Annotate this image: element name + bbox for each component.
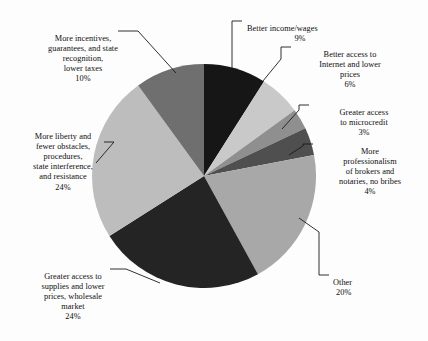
slice-label-supplies-pct: 24% bbox=[12, 312, 134, 322]
slice-label-supplies: Greater access to supplies and lower pri… bbox=[12, 262, 134, 333]
slice-label-income-text: Better income/wages bbox=[247, 24, 318, 33]
slice-label-internet-text: Better access to Internet and lower pric… bbox=[319, 50, 381, 79]
pie-svg bbox=[92, 64, 316, 288]
slice-label-other: Other 20% bbox=[333, 268, 413, 308]
slice-label-liberty-text: More liberty and fewer obstacles, proced… bbox=[33, 132, 93, 181]
slice-label-incentives-text: More incentives, guarantees, and state r… bbox=[48, 34, 118, 73]
slice-label-other-text: Other bbox=[333, 278, 352, 287]
slice-label-internet-pct: 6% bbox=[296, 80, 404, 90]
slice-label-incentives: More incentives, guarantees, and state r… bbox=[20, 24, 146, 95]
chart-figure: Better income/wages 9% Better access to … bbox=[0, 0, 428, 341]
slice-label-brokers-text: More professionalism of brokers and nota… bbox=[339, 147, 401, 186]
slice-label-incentives-pct: 10% bbox=[20, 74, 146, 84]
slice-label-liberty-pct: 24% bbox=[4, 183, 122, 193]
figure-caption bbox=[26, 332, 406, 341]
slice-label-brokers-pct: 4% bbox=[318, 187, 422, 197]
slice-label-supplies-text: Greater access to supplies and lower pri… bbox=[41, 272, 104, 311]
slice-label-brokers: More professionalism of brokers and nota… bbox=[318, 137, 422, 208]
slice-label-liberty: More liberty and fewer obstacles, proced… bbox=[4, 122, 122, 203]
slice-label-internet: Better access to Internet and lower pric… bbox=[296, 40, 404, 101]
pie-chart bbox=[92, 64, 316, 288]
slice-label-microcredit-text: Greater access to microcredit bbox=[340, 108, 389, 127]
slice-label-other-pct: 20% bbox=[333, 288, 413, 298]
